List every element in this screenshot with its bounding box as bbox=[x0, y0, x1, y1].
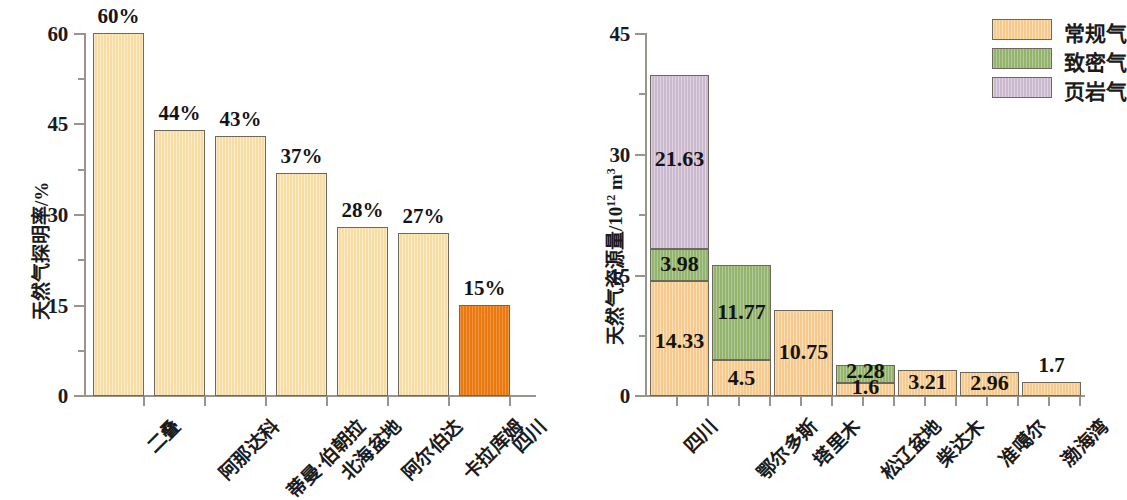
right-ytick-label: 30 bbox=[588, 145, 630, 166]
right-xlabel-bohaiwan: 渤海湾 bbox=[1054, 412, 1113, 471]
bar-aerboda[interactable] bbox=[337, 227, 388, 396]
bar-value-label: 37% bbox=[266, 146, 337, 167]
right-ytick-label: 0 bbox=[588, 386, 630, 407]
right-ytick-label: 45 bbox=[588, 24, 630, 45]
right-xlabel-talimu: 塔里木 bbox=[806, 412, 865, 471]
left-ytick-label: 30 bbox=[26, 205, 68, 226]
bar-kalakumu[interactable] bbox=[398, 233, 449, 396]
right-xlabel-sichuan: 四川 bbox=[676, 412, 722, 458]
left-ytick-label: 60 bbox=[26, 24, 68, 45]
right-ytick-15 bbox=[635, 275, 645, 277]
bar-value-label: 4.5 bbox=[712, 367, 771, 389]
left-ytick-30 bbox=[74, 214, 84, 216]
right-ytick-0 bbox=[635, 395, 645, 397]
bar-timan-bochaola[interactable] bbox=[215, 136, 266, 396]
left-xtick bbox=[326, 397, 328, 406]
right-y-axis-label-exp2: 3 bbox=[604, 168, 618, 174]
legend-label-tight: 致密气 bbox=[1064, 46, 1127, 76]
bar-value-label: 11.77 bbox=[707, 301, 776, 323]
left-ytick-0 bbox=[74, 395, 84, 397]
right-y-axis-label-mid: m bbox=[605, 174, 626, 195]
left-xlabel-aerboda: 阿尔伯达 bbox=[394, 412, 467, 485]
right-xtick bbox=[831, 397, 833, 406]
left-ytick-15 bbox=[74, 305, 84, 307]
left-ytick-minor bbox=[78, 169, 84, 171]
left-ytick-label: 0 bbox=[26, 386, 68, 407]
left-ytick-label: 15 bbox=[26, 296, 68, 317]
left-xtick bbox=[387, 397, 389, 406]
right-xtick bbox=[924, 397, 926, 406]
bar-value-label: 14.33 bbox=[650, 330, 709, 352]
right-xtick bbox=[1048, 397, 1050, 406]
bar-anadake[interactable] bbox=[154, 130, 205, 396]
bar-value-label: 15% bbox=[449, 278, 520, 299]
left-xtick bbox=[143, 397, 145, 406]
left-xtick bbox=[509, 397, 511, 406]
bar-beihai-pendi[interactable] bbox=[276, 173, 327, 396]
legend-swatch-conventional bbox=[992, 19, 1052, 40]
right-ytick-minor bbox=[639, 93, 645, 95]
right-xtick bbox=[738, 397, 740, 406]
bar-value-label: 21.63 bbox=[650, 148, 709, 170]
right-y-axis-label: 天然气资源量/1012 m3 bbox=[600, 168, 627, 345]
right-xlabel-zhunger: 准噶尔 bbox=[992, 412, 1051, 471]
right-xtick bbox=[986, 397, 988, 406]
right-xtick bbox=[769, 397, 771, 406]
right-xtick bbox=[800, 397, 802, 406]
bar-sichuan-highlight[interactable] bbox=[459, 305, 510, 396]
bar-value-label: 3.21 bbox=[893, 371, 962, 393]
left-xtick bbox=[265, 397, 267, 406]
left-y-axis-line bbox=[84, 33, 86, 396]
bar-value-label: 27% bbox=[388, 206, 459, 227]
bar-value-label: 60% bbox=[83, 6, 154, 27]
right-ytick-minor bbox=[639, 335, 645, 337]
bar-value-label: 2.96 bbox=[955, 372, 1024, 394]
legend-label-conventional: 常规气 bbox=[1064, 17, 1127, 47]
right-y-axis-line bbox=[645, 33, 647, 396]
left-ytick-minor bbox=[78, 259, 84, 261]
legend-swatch-shale bbox=[992, 77, 1052, 98]
bar-erdie[interactable] bbox=[93, 33, 144, 396]
right-xtick bbox=[955, 397, 957, 406]
legend-label-shale: 页岩气 bbox=[1064, 75, 1127, 105]
right-xtick bbox=[1079, 397, 1081, 406]
right-xtick bbox=[707, 397, 709, 406]
left-ytick-60 bbox=[74, 33, 84, 35]
left-ytick-label: 45 bbox=[26, 114, 68, 135]
right-xlabel-chaidamu: 柴达木 bbox=[930, 412, 989, 471]
right-ytick-45 bbox=[635, 33, 645, 35]
left-ytick-minor bbox=[78, 350, 84, 352]
legend-swatch-tight bbox=[992, 48, 1052, 69]
bar-value-label: 10.75 bbox=[769, 341, 838, 363]
right-y-axis-label-exp: 12 bbox=[604, 195, 618, 207]
bar-value-label: 2.28 bbox=[836, 360, 895, 382]
left-ytick-45 bbox=[74, 123, 84, 125]
bar-value-label: 3.98 bbox=[650, 253, 709, 275]
right-xtick bbox=[676, 397, 678, 406]
right-ytick-30 bbox=[635, 154, 645, 156]
bar-value-label: 1.7 bbox=[1017, 355, 1086, 376]
right-xtick bbox=[1017, 397, 1019, 406]
bar-value-label: 43% bbox=[205, 109, 276, 130]
left-xtick bbox=[448, 397, 450, 406]
bar-bohaiwan-conventional[interactable] bbox=[1022, 382, 1081, 396]
right-ytick-label: 15 bbox=[588, 266, 630, 287]
right-ytick-minor bbox=[639, 214, 645, 216]
left-xtick bbox=[204, 397, 206, 406]
left-xlabel-anadake: 阿那达科 bbox=[211, 412, 284, 485]
right-xtick bbox=[893, 397, 895, 406]
left-xlabel-erdie: 二叠 bbox=[139, 412, 185, 458]
left-ytick-minor bbox=[78, 78, 84, 80]
